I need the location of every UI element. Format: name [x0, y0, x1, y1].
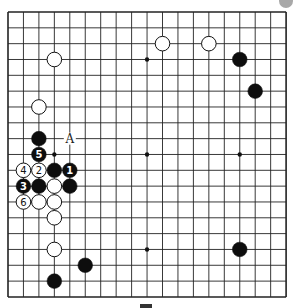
white-stone [47, 179, 62, 194]
move-number-label: 1 [66, 165, 73, 176]
move-number-label: 3 [20, 181, 27, 192]
go-board: A542136 [0, 0, 293, 308]
star-point [145, 152, 149, 156]
move-number-label: 4 [20, 165, 26, 176]
white-stone [47, 210, 62, 225]
black-stone [248, 84, 263, 99]
white-stone [202, 36, 217, 51]
black-stone [32, 179, 47, 194]
black-stone [47, 163, 62, 178]
black-stone [232, 242, 247, 257]
black-stone [232, 52, 247, 67]
white-stone [47, 52, 62, 67]
black-stone [47, 274, 62, 289]
star-point [238, 152, 242, 156]
white-stone [155, 36, 170, 51]
black-stone [78, 258, 93, 273]
black-stone [63, 179, 78, 194]
move-number-label: 5 [35, 149, 42, 160]
caption-fragment [140, 304, 152, 308]
move-number-label: 6 [20, 197, 26, 208]
star-point [145, 247, 149, 251]
move-number-label: 2 [36, 165, 42, 176]
white-stone [32, 100, 47, 115]
position-marker-a: A [64, 132, 74, 146]
star-point [145, 57, 149, 61]
black-stone [32, 131, 47, 146]
white-stone [47, 195, 62, 210]
white-stone [32, 195, 47, 210]
star-point [52, 152, 56, 156]
go-board-diagram: A542136 [0, 0, 293, 308]
white-stone [47, 242, 62, 257]
